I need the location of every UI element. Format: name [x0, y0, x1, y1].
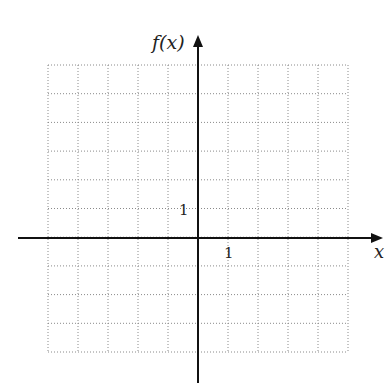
- x-axis-label: x: [374, 241, 384, 262]
- y-axis-label: f(x): [150, 31, 185, 53]
- y-axis-arrow-icon: [193, 35, 203, 47]
- coordinate-plane: f(x) x 1 1: [0, 0, 392, 391]
- y-unit-label: 1: [179, 201, 189, 219]
- x-unit-label: 1: [224, 244, 234, 262]
